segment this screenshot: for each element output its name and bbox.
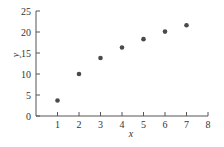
y-tick-label: 25	[21, 6, 31, 17]
x-tick-label: 3	[98, 119, 103, 130]
y-tick-label: 20	[21, 27, 31, 38]
data-point	[163, 29, 168, 34]
x-tick-label: 1	[55, 119, 60, 130]
x-tick-label: 5	[141, 119, 146, 130]
y-tick-label: 0	[26, 111, 31, 122]
x-tick-label: 4	[120, 119, 125, 130]
data-point	[98, 56, 103, 61]
x-tick-label: 8	[206, 119, 211, 130]
data-point	[184, 23, 189, 28]
x-axis: 12345678	[36, 112, 211, 130]
y-tick-label: 5	[26, 90, 31, 101]
scatter-chart: 0510152025 12345678 x y	[0, 0, 224, 147]
data-point	[120, 45, 125, 50]
y-tick-label: 10	[21, 69, 31, 80]
x-tick-label: 6	[163, 119, 168, 130]
data-point	[55, 98, 60, 103]
x-tick-label: 7	[184, 119, 189, 130]
y-axis-title: y	[10, 52, 21, 58]
y-tick-label: 15	[21, 48, 31, 59]
data-point	[77, 72, 82, 77]
data-point	[141, 37, 146, 42]
x-axis-title: x	[128, 128, 134, 139]
x-tick-label: 2	[77, 119, 82, 130]
data-points	[55, 23, 189, 103]
y-axis: 0510152025	[21, 6, 40, 122]
